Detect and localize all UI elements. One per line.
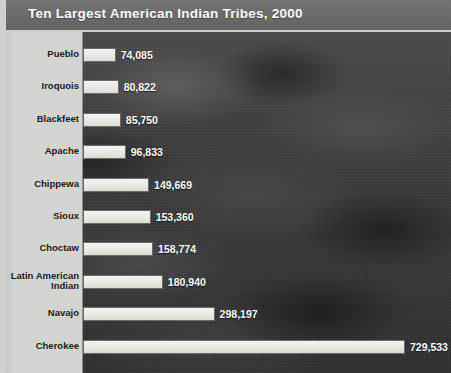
bar <box>83 210 151 224</box>
bar-value-label: 158,774 <box>158 242 196 256</box>
bar-value-label: 80,822 <box>124 80 156 94</box>
bar-category-label: Navajo <box>9 308 79 319</box>
bar <box>83 80 119 94</box>
bar <box>83 275 163 289</box>
bar <box>83 340 405 354</box>
bar-value-label: 153,360 <box>156 210 194 224</box>
bar-category-label: Pueblo <box>9 49 79 60</box>
page-title: Ten Largest American Indian Tribes, 2000 <box>28 6 303 21</box>
bar-category-label: Choctaw <box>9 243 79 254</box>
title-band: Ten Largest American Indian Tribes, 2000 <box>6 0 451 30</box>
bar-value-label: 96,833 <box>131 145 163 159</box>
bar <box>83 242 153 256</box>
chart-figure: Ten Largest American Indian Tribes, 2000… <box>0 0 451 373</box>
bar <box>83 113 121 127</box>
bar-value-label: 298,197 <box>220 307 258 321</box>
bar-value-label: 180,940 <box>168 275 206 289</box>
plot-frame: Pueblo74,085Iroquois80,822Blackfeet85,75… <box>6 32 451 373</box>
bar-category-label: Iroquois <box>9 81 79 92</box>
bar-category-label: Blackfeet <box>9 114 79 125</box>
bar-value-label: 149,669 <box>154 178 192 192</box>
bar-category-label: Sioux <box>9 211 79 222</box>
bar <box>83 48 116 62</box>
bar-category-label: Chippewa <box>9 179 79 190</box>
bar-category-label: Latin American Indian <box>9 271 79 292</box>
bar <box>83 178 149 192</box>
bar-value-label: 729,533 <box>410 340 448 354</box>
bar-value-label: 74,085 <box>121 48 153 62</box>
bar-category-label: Cherokee <box>9 341 79 352</box>
bar-category-label: Apache <box>9 146 79 157</box>
bar <box>83 307 215 321</box>
bar <box>83 145 126 159</box>
bar-value-label: 85,750 <box>126 113 158 127</box>
